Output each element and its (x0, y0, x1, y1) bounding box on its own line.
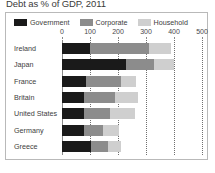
stacked-bar-germany[interactable] (62, 125, 119, 136)
x-tick-mark-100 (90, 37, 91, 39)
chart-panel: GovernmentCorporateHousehold 01002003004… (5, 12, 208, 160)
bar-segment-corporate (91, 141, 108, 152)
bar-row[interactable] (62, 108, 202, 119)
category-label-britain: Britain (14, 92, 62, 103)
legend-label-government: Government (30, 18, 70, 27)
x-tick-mark-300 (146, 37, 147, 39)
legend-label-household: Household (154, 18, 188, 27)
bar-segment-corporate (84, 92, 115, 103)
x-tick-label-100: 100 (84, 28, 96, 35)
bar-segment-household (121, 76, 136, 87)
category-label-japan: Japan (14, 59, 62, 70)
bar-segment-government (62, 108, 84, 119)
legend-label-corporate: Corporate (96, 18, 128, 27)
x-tick-label-400: 400 (168, 28, 180, 35)
legend-swatch-household (138, 19, 151, 26)
bar-segment-household (154, 59, 174, 70)
x-tick-label-300: 300 (140, 28, 152, 35)
stacked-bar-greece[interactable] (62, 141, 121, 152)
legend-item-corporate[interactable]: Corporate (80, 18, 128, 27)
bar-row[interactable] (62, 125, 202, 136)
bar-row[interactable] (62, 59, 202, 70)
category-label-greece: Greece (14, 141, 62, 152)
x-tick-mark-0 (62, 37, 63, 39)
bar-segment-household (103, 125, 120, 136)
x-tick-mark-500 (202, 37, 203, 39)
stacked-bar-france[interactable] (62, 76, 136, 87)
bar-segment-corporate (126, 59, 154, 70)
bar-segment-government (62, 92, 84, 103)
stacked-bar-united-states[interactable] (62, 108, 135, 119)
plot-area (62, 40, 202, 155)
stacked-bar-britain[interactable] (62, 92, 138, 103)
bar-segment-government (62, 141, 91, 152)
bar-row[interactable] (62, 76, 202, 87)
bar-segment-government (62, 76, 86, 87)
chart-figure: Debt as % of GDP, 2011 GovernmentCorpora… (0, 0, 215, 173)
bar-row[interactable] (62, 141, 202, 152)
bar-row[interactable] (62, 92, 202, 103)
bar-segment-government (62, 43, 90, 54)
category-label-ireland: Ireland (14, 43, 62, 54)
x-tick-label-0: 0 (60, 28, 64, 35)
legend-swatch-government (14, 19, 27, 26)
bar-segment-government (62, 59, 126, 70)
bar-segment-household (149, 43, 171, 54)
legend-item-household[interactable]: Household (138, 18, 188, 27)
x-tick-label-500: 500 (196, 28, 208, 35)
chart-title: Debt as % of GDP, 2011 (6, 0, 106, 9)
bar-row[interactable] (62, 43, 202, 54)
legend-swatch-corporate (80, 19, 93, 26)
stacked-bar-japan[interactable] (62, 59, 174, 70)
bar-segment-household (115, 92, 137, 103)
x-tick-mark-400 (174, 37, 175, 39)
bar-segment-corporate (90, 43, 149, 54)
gridline-500 (202, 40, 203, 155)
category-label-united-states: United States (14, 108, 62, 119)
bar-segment-government (62, 125, 84, 136)
bar-segment-corporate (84, 125, 102, 136)
bar-rows (62, 40, 202, 155)
bar-segment-household (108, 141, 121, 152)
category-label-germany: Germany (14, 125, 62, 136)
chart-legend: GovernmentCorporateHousehold (14, 16, 204, 28)
legend-item-government[interactable]: Government (14, 18, 70, 27)
stacked-bar-ireland[interactable] (62, 43, 171, 54)
category-label-france: France (14, 76, 62, 87)
category-axis-labels: IrelandJapanFranceBritainUnited StatesGe… (14, 40, 62, 155)
x-tick-label-200: 200 (112, 28, 124, 35)
x-axis: 0100200300400500 (62, 28, 202, 39)
x-tick-mark-200 (118, 37, 119, 39)
bar-segment-corporate (84, 108, 109, 119)
bar-segment-household (110, 108, 135, 119)
bar-segment-corporate (86, 76, 121, 87)
